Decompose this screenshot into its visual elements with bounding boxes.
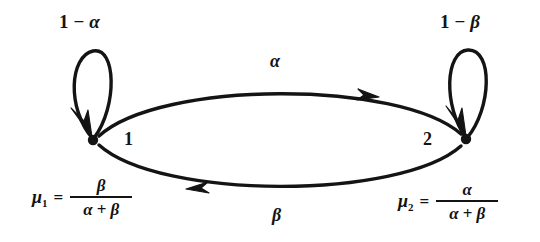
- self-loop-label-state-1-one: 1: [59, 11, 69, 32]
- equation-mu2-symbol: μ: [398, 191, 408, 211]
- equation-mu2-subscript: 2: [408, 201, 414, 213]
- equation-mu1-numerator: β: [91, 177, 112, 196]
- edge-self-loop-state-1: [74, 51, 111, 139]
- equation-mu2-denominator-op: +: [463, 204, 473, 223]
- arrowhead-arc-1-to-2: [357, 89, 379, 100]
- equation-mu2-denominator: α+β: [445, 202, 489, 222]
- self-loop-label-state-1-symbol: α: [89, 11, 100, 32]
- equation-mu1-equals: =: [54, 188, 64, 208]
- equation-mu1-denominator-op: +: [97, 200, 107, 219]
- state-label-2: 2: [423, 130, 432, 148]
- equation-mu2-numerator: α: [457, 181, 478, 200]
- equation-mu1-subscript: 1: [42, 197, 48, 209]
- self-loop-label-state-2: 1−β: [440, 12, 480, 31]
- markov-chain-figure: 1−α 1−β α β 1 2 μ1 = β α+β μ2 = α α+β: [0, 0, 540, 242]
- node-state-1: [88, 135, 98, 145]
- equation-mu1-fraction: β α+β: [70, 177, 132, 218]
- equation-mu2-denominator-left: α: [449, 204, 458, 223]
- equation-mu2-lhs: μ2: [398, 191, 414, 212]
- node-state-2: [461, 134, 471, 144]
- self-loop-label-state-1-minus: −: [74, 11, 85, 32]
- equation-mu1-denominator-right: β: [110, 200, 119, 219]
- equation-mu2-denominator-right: β: [476, 204, 485, 223]
- arc-label-alpha: α: [270, 52, 280, 70]
- arrowhead-arc-2-to-1: [186, 182, 209, 193]
- edge-self-loop-state-2: [450, 50, 487, 138]
- equation-mu2-equals: =: [420, 192, 430, 212]
- state-label-1: 1: [124, 130, 133, 148]
- self-loop-label-state-2-one: 1: [440, 11, 450, 32]
- equation-mu2-fraction: α α+β: [436, 181, 498, 222]
- equation-mu1: μ1 = β α+β: [32, 177, 132, 218]
- equation-mu1-denominator: α+β: [79, 198, 123, 218]
- edge-arc-1-to-2: [99, 94, 461, 136]
- arc-label-beta: β: [272, 206, 281, 224]
- self-loop-label-state-1: 1−α: [59, 12, 100, 31]
- equation-mu1-denominator-left: α: [83, 200, 92, 219]
- arrowhead-self-loop-state-1: [71, 108, 92, 137]
- equation-mu2: μ2 = α α+β: [398, 181, 498, 222]
- equation-mu1-lhs: μ1: [32, 187, 48, 208]
- equation-mu1-symbol: μ: [32, 187, 42, 207]
- self-loop-label-state-2-minus: −: [455, 11, 466, 32]
- self-loop-label-state-2-symbol: β: [470, 11, 480, 32]
